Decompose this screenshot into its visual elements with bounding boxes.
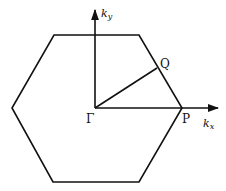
- brillouin-zone-diagram: Γ P Q kx ky: [0, 0, 226, 191]
- q-label: Q: [160, 57, 170, 71]
- kx-subscript: x: [210, 122, 215, 131]
- p-label: P: [182, 112, 190, 126]
- ky-label: ky: [101, 7, 113, 21]
- kx-label: kx: [203, 117, 215, 131]
- gamma-q-line: [95, 68, 157, 108]
- gamma-label: Γ: [86, 112, 94, 126]
- ky-subscript: y: [107, 12, 113, 21]
